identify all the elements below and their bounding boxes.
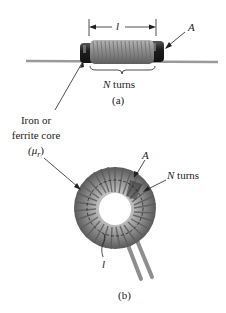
turns-text-a: turns [113, 78, 135, 90]
length-symbol-a: l [116, 20, 119, 33]
solenoid [26, 40, 218, 64]
mu-close: ) [40, 144, 44, 156]
core-label-line3: (μr) [4, 143, 68, 162]
turns-symbol-a: N [103, 78, 110, 90]
turns-text-b: turns [177, 169, 199, 181]
core-label-line2: ferrite core [4, 128, 68, 143]
core-pointer-line [55, 61, 84, 110]
core-label-line1: Iron or [4, 113, 68, 128]
caption-b: (b) [118, 289, 131, 302]
area-pointer-a [165, 32, 185, 49]
core-pointer-line-b [44, 158, 81, 190]
turns-label-a: N turns [103, 78, 135, 91]
area-symbol-b: A [142, 149, 149, 162]
length-symbol-b: l [102, 258, 105, 271]
turns-label-b: N turns [167, 169, 199, 182]
area-symbol-a: A [188, 21, 195, 34]
caption-a: (a) [112, 94, 124, 107]
turns-symbol-b: N [167, 169, 174, 181]
length-dimension [89, 19, 156, 36]
toroid [74, 167, 156, 279]
mu-symbol: (μ [28, 144, 37, 156]
core-label: Iron or ferrite core (μr) [4, 113, 68, 162]
turns-brace [90, 66, 155, 74]
